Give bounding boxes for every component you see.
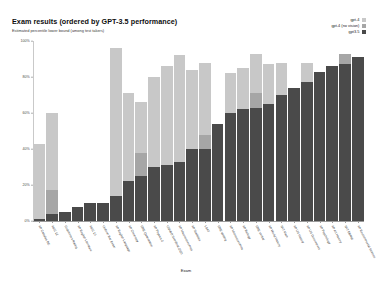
bar-column[interactable]: [250, 41, 262, 221]
bar-segment-gpt4-no-vision[interactable]: [339, 54, 351, 65]
x-axis-label-slot: AP Environmental Science: [352, 223, 364, 267]
bar-column[interactable]: [225, 41, 237, 221]
bar-column[interactable]: [174, 41, 186, 221]
bar-segment-gpt35[interactable]: [250, 108, 262, 221]
bar-segment-gpt35[interactable]: [276, 95, 288, 221]
x-axis-label-slot: LSAT: [199, 223, 211, 267]
x-axis-label-slot: AMC 12: [46, 223, 58, 267]
bar-segment-gpt35[interactable]: [84, 203, 96, 221]
x-axis-label-slot: GRE Quantitative: [135, 223, 147, 267]
bar-segment-gpt35[interactable]: [314, 72, 326, 221]
bar-segment-gpt35[interactable]: [263, 104, 275, 221]
bar-segment-gpt4[interactable]: [110, 48, 122, 196]
bar-segment-gpt35[interactable]: [97, 203, 109, 221]
bar-column[interactable]: [84, 41, 96, 221]
bar-column[interactable]: [59, 41, 71, 221]
bar-column[interactable]: [212, 41, 224, 221]
bar-column[interactable]: [186, 41, 198, 221]
chart-title: Exam results (ordered by GPT-3.5 perform…: [12, 17, 177, 26]
bar-segment-gpt4[interactable]: [276, 63, 288, 95]
bar-segment-gpt4[interactable]: [250, 54, 262, 94]
bar-segment-gpt35[interactable]: [174, 162, 186, 221]
bar-segment-gpt4[interactable]: [34, 144, 46, 220]
bar-segment-gpt4[interactable]: [237, 68, 249, 109]
bar-segment-gpt35[interactable]: [123, 181, 135, 221]
bar-segment-gpt4[interactable]: [123, 93, 135, 181]
bar-segment-gpt35[interactable]: [110, 196, 122, 221]
bar-column[interactable]: [326, 41, 338, 221]
bar-column[interactable]: [314, 41, 326, 221]
bar-segment-gpt35[interactable]: [148, 167, 160, 221]
bar-column[interactable]: [148, 41, 160, 221]
bar-segment-gpt4[interactable]: [186, 70, 198, 149]
bar-column[interactable]: [46, 41, 58, 221]
bar-column[interactable]: [123, 41, 135, 221]
legend-item[interactable]: gpt3.5: [348, 30, 366, 35]
x-axis-label-slot: AP Chemistry: [123, 223, 135, 267]
bar-segment-gpt4[interactable]: [225, 73, 237, 113]
x-axis-line: [33, 221, 364, 222]
x-axis-label-slot: AP English Literature: [72, 223, 84, 267]
legend-item-label: gpt-4 (no vision): [331, 24, 359, 28]
bar-segment-gpt35[interactable]: [352, 57, 364, 221]
x-axis-label-slot: AP English Language: [110, 223, 122, 267]
bar-segment-gpt35[interactable]: [59, 212, 71, 221]
bar-segment-gpt4-no-vision[interactable]: [135, 153, 147, 176]
bar-segment-gpt4[interactable]: [199, 63, 211, 135]
legend-swatch-gpt35: [362, 30, 366, 34]
bar-segment-gpt35[interactable]: [186, 149, 198, 221]
bar-series-group: [33, 41, 364, 221]
bar-segment-gpt4[interactable]: [161, 66, 173, 165]
bar-segment-gpt35[interactable]: [72, 207, 84, 221]
bar-segment-gpt4[interactable]: [301, 63, 313, 83]
bar-column[interactable]: [263, 41, 275, 221]
bar-column[interactable]: [237, 41, 249, 221]
bar-segment-gpt35[interactable]: [212, 124, 224, 221]
bar-column[interactable]: [301, 41, 313, 221]
bar-segment-gpt35[interactable]: [326, 66, 338, 221]
bar-column[interactable]: [288, 41, 300, 221]
bar-segment-gpt35[interactable]: [225, 113, 237, 221]
x-axis-tick-mark: [205, 221, 206, 223]
x-axis-tick-mark: [192, 221, 193, 223]
bar-column[interactable]: [72, 41, 84, 221]
bar-segment-gpt35[interactable]: [288, 88, 300, 221]
bar-segment-gpt35[interactable]: [135, 176, 147, 221]
x-axis-tick-mark: [307, 221, 308, 223]
bar-segment-gpt4-no-vision[interactable]: [46, 190, 58, 213]
bar-segment-gpt4[interactable]: [46, 113, 58, 190]
bar-segment-gpt35[interactable]: [199, 149, 211, 221]
legend-item[interactable]: gpt-4: [350, 18, 366, 23]
bar-segment-gpt4[interactable]: [148, 77, 160, 167]
x-axis-label-slot: GRE Verbal: [250, 223, 262, 267]
bar-segment-gpt4[interactable]: [135, 102, 147, 152]
x-axis-tick-mark: [179, 221, 180, 223]
bar-column[interactable]: [97, 41, 109, 221]
bar-column[interactable]: [161, 41, 173, 221]
bar-column[interactable]: [339, 41, 351, 221]
bar-column[interactable]: [352, 41, 364, 221]
x-axis-tick-mark: [116, 221, 117, 223]
bar-column[interactable]: [276, 41, 288, 221]
bar-segment-gpt4-no-vision[interactable]: [199, 135, 211, 149]
bar-segment-gpt35[interactable]: [237, 109, 249, 221]
x-axis-tick-mark: [269, 221, 270, 223]
bar-segment-gpt4[interactable]: [174, 55, 186, 161]
x-axis-tick-mark: [90, 221, 91, 223]
bar-column[interactable]: [199, 41, 211, 221]
x-axis-label-slot: SAT Math: [276, 223, 288, 267]
bar-segment-gpt35[interactable]: [339, 64, 351, 221]
bar-column[interactable]: [110, 41, 122, 221]
bar-column[interactable]: [34, 41, 46, 221]
x-axis-labels: AP Calculus BCAMC 12Codeforces RatingAP …: [33, 223, 364, 267]
bar-column[interactable]: [135, 41, 147, 221]
x-axis-label-slot: USABO Semifinal 2020: [161, 223, 173, 267]
legend-item[interactable]: gpt-4 (no vision): [331, 24, 366, 29]
bar-segment-gpt4[interactable]: [263, 64, 275, 104]
bar-segment-gpt35[interactable]: [46, 214, 58, 221]
bar-segment-gpt4-no-vision[interactable]: [250, 93, 262, 107]
legend-item-label: gpt3.5: [348, 30, 359, 34]
bar-segment-gpt35[interactable]: [301, 82, 313, 221]
bar-segment-gpt35[interactable]: [161, 165, 173, 221]
